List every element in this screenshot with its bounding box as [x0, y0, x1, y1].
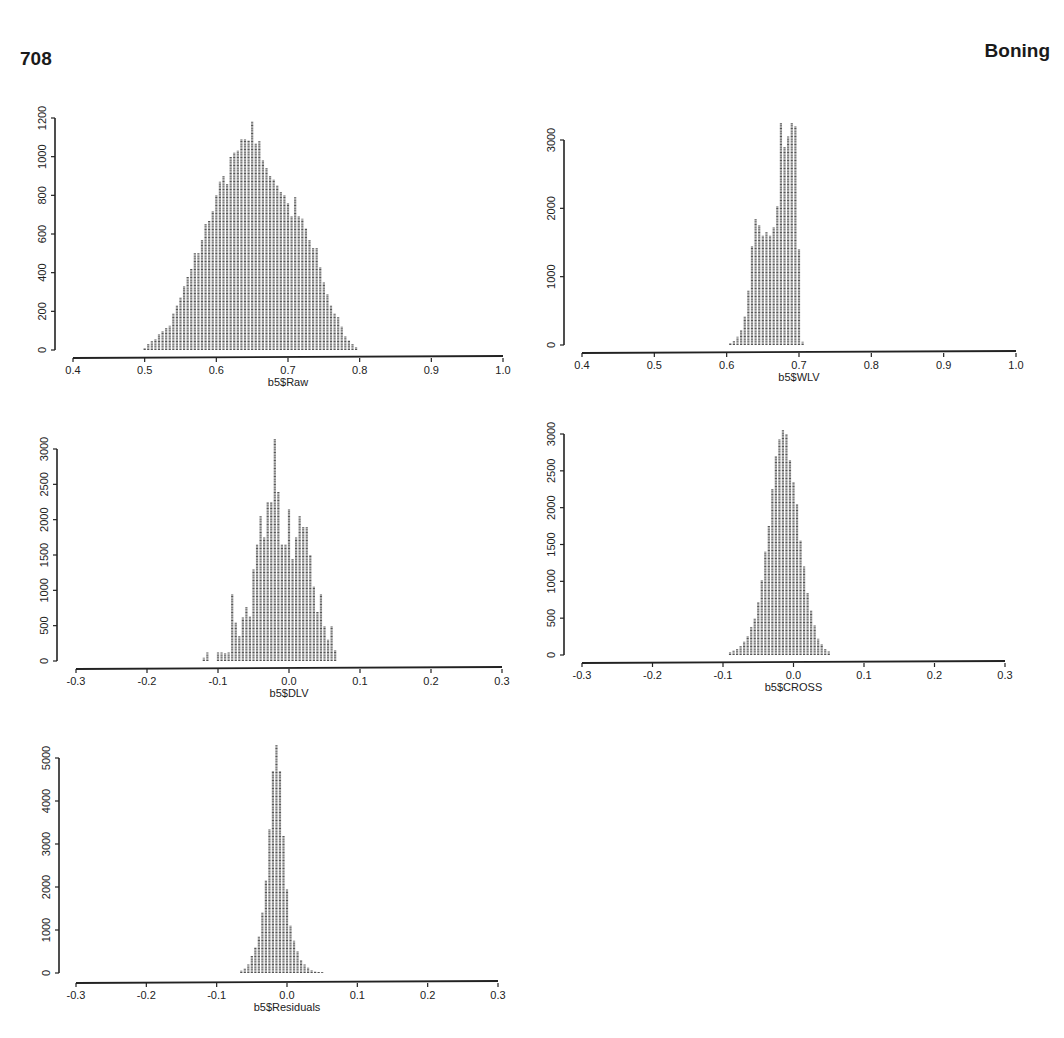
x-tick-label: 0.4: [574, 359, 589, 371]
y-tick-label: 800: [36, 186, 48, 204]
x-tick-label: -0.1: [207, 989, 226, 1001]
y-tick-label: 0: [40, 970, 52, 976]
x-tick-label: 1.0: [1008, 359, 1023, 371]
x-axis: [76, 667, 502, 669]
x-tick-label: -0.1: [714, 669, 733, 681]
x-tick-label: 0.1: [856, 669, 871, 681]
x-tick-label: 0.9: [424, 364, 439, 376]
x-tick-label: 0.6: [719, 359, 734, 371]
y-tick-label: 2000: [545, 196, 557, 220]
x-tick-label: 0.3: [494, 675, 509, 687]
histogram-braw: 0200400600800100012000.40.50.60.70.80.91…: [36, 106, 511, 388]
x-tick-label: 0.2: [420, 989, 435, 1001]
x-tick-label: 0.3: [490, 989, 505, 1001]
y-tick-label: 3000: [38, 437, 50, 461]
y-tick-label: 1000: [38, 578, 50, 602]
y-tick-label: 2500: [545, 459, 557, 483]
histogram-bdlv: 050010001500200025003000-0.3-0.2-0.10.00…: [38, 437, 510, 699]
x-tick-label: 0.5: [647, 359, 662, 371]
x-tick-label: -0.2: [138, 675, 157, 687]
x-tick-label: -0.3: [67, 989, 86, 1001]
y-tick-label: 1000: [545, 264, 557, 288]
y-tick-label: 2500: [38, 472, 50, 496]
x-axis: [76, 981, 498, 983]
x-tick-label: 0.7: [280, 364, 295, 376]
x-tick-label: 0.3: [997, 669, 1012, 681]
x-tick-label: -0.3: [67, 675, 86, 687]
y-tick-label: 400: [36, 263, 48, 281]
x-tick-label: 0.2: [927, 669, 942, 681]
x-axis: [73, 356, 503, 358]
x-tick-label: -0.2: [643, 669, 662, 681]
x-tick-label: 0.1: [352, 675, 367, 687]
y-tick-label: 4000: [40, 789, 52, 813]
x-axis-label: b5$Residuals: [254, 1001, 321, 1013]
x-tick-label: -0.3: [573, 669, 592, 681]
x-axis: [582, 661, 1005, 663]
x-tick-label: 0.9: [936, 359, 951, 371]
y-tick-label: 1000: [545, 569, 557, 593]
x-tick-label: 0.1: [350, 989, 365, 1001]
x-tick-label: 0.8: [352, 364, 367, 376]
x-tick-label: -0.2: [137, 989, 156, 1001]
x-tick-label: -0.1: [209, 675, 228, 687]
x-tick-label: 0.0: [279, 989, 294, 1001]
y-tick-label: 2000: [40, 875, 52, 899]
y-tick-label: 2000: [38, 507, 50, 531]
x-tick-label: 1.0: [495, 364, 510, 376]
histogram-bcross: 050010001500200025003000-0.3-0.2-0.10.00…: [545, 422, 1013, 693]
y-tick-label: 0: [545, 652, 557, 658]
x-tick-label: 0.0: [786, 669, 801, 681]
x-tick-label: 0.4: [65, 364, 80, 376]
y-tick-label: 3000: [545, 422, 557, 446]
x-axis-label: b5$WLV: [778, 371, 820, 383]
y-tick-label: 5000: [40, 746, 52, 770]
x-tick-label: 0.0: [281, 675, 296, 687]
x-tick-label: 0.6: [209, 364, 224, 376]
y-tick-label: 2000: [545, 495, 557, 519]
y-tick-label: 1200: [36, 106, 48, 130]
x-tick-label: 0.7: [791, 359, 806, 371]
histogram-panel: 0200400600800100012000.40.50.60.70.80.91…: [0, 0, 1064, 1038]
y-tick-label: 500: [38, 616, 50, 634]
y-tick-label: 1500: [545, 532, 557, 556]
y-tick-label: 3000: [545, 128, 557, 152]
y-tick-label: 0: [545, 342, 557, 348]
y-tick-label: 1500: [38, 543, 50, 567]
y-tick-label: 1000: [40, 918, 52, 942]
x-axis-label: b5$CROSS: [765, 681, 822, 693]
histogram-bwlv: 01000200030000.40.50.60.70.80.91.0b5$WLV: [545, 123, 1024, 383]
y-tick-label: 0: [38, 658, 50, 664]
x-tick-label: 0.5: [137, 364, 152, 376]
y-tick-label: 1000: [36, 144, 48, 168]
x-tick-label: 0.8: [864, 359, 879, 371]
y-tick-label: 500: [545, 609, 557, 627]
y-tick-label: 0: [36, 347, 48, 353]
x-axis-label: b5$DLV: [270, 687, 310, 699]
x-axis-label: b5$Raw: [268, 376, 308, 388]
y-tick-label: 3000: [40, 832, 52, 856]
y-tick-label: 200: [36, 302, 48, 320]
histogram-bresiduals: 010002000300040005000-0.3-0.2-0.10.00.10…: [40, 745, 506, 1013]
y-tick-label: 600: [36, 225, 48, 243]
x-axis: [582, 351, 1016, 353]
x-tick-label: 0.2: [423, 675, 438, 687]
